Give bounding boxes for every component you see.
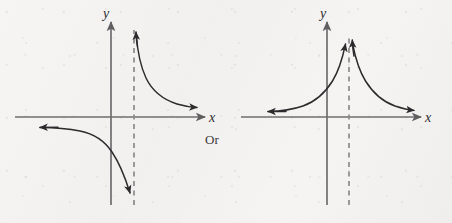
left-graph-upper-branch-curve	[136, 36, 197, 108]
figure-page: y x y x Or	[0, 0, 452, 223]
right-graph-x-axis-label: x	[425, 110, 431, 126]
right-graph-y-axis-label: y	[320, 6, 326, 22]
right-graph-right-branch-curve	[353, 44, 414, 110]
left-graph	[15, 22, 205, 205]
left-graph-lower-branch-curve	[40, 128, 130, 194]
asymptote-figure	[0, 0, 452, 223]
right-graph-left-branch-curve	[268, 44, 346, 112]
or-connector-label: Or	[205, 132, 219, 148]
right-graph	[241, 22, 421, 205]
left-graph-x-axis-label: x	[209, 110, 215, 126]
left-graph-y-axis-label: y	[103, 6, 109, 22]
